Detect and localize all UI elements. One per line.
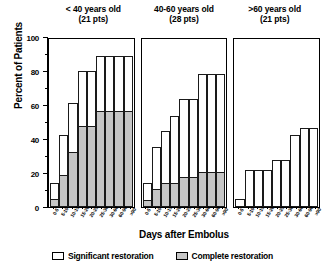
y-axis-tick-label: 100 bbox=[27, 34, 39, 43]
bar-column bbox=[114, 39, 123, 207]
bar-complete-restoration bbox=[96, 111, 105, 207]
bar-column bbox=[68, 39, 77, 207]
plot-panel-40to60 bbox=[141, 38, 228, 208]
panel-title-over60: >60 years old (21 pts) bbox=[229, 4, 320, 30]
x-tick-cell: >90 bbox=[310, 208, 320, 230]
bar-column bbox=[245, 39, 254, 207]
x-tick-group-over60: 0-55-1010-1515-2020-2525-3030-6060-90>90 bbox=[233, 208, 320, 230]
legend-label-complete: Complete restoration bbox=[192, 251, 274, 261]
bar-significant-restoration bbox=[290, 135, 299, 207]
bar-column bbox=[152, 39, 161, 207]
x-tick-cell: 0-5 bbox=[48, 208, 58, 230]
bar-column bbox=[281, 39, 290, 207]
bar-column bbox=[96, 39, 105, 207]
bar-complete-restoration bbox=[216, 172, 225, 207]
bar-column bbox=[300, 39, 309, 207]
bar-column bbox=[170, 39, 179, 207]
bar-column bbox=[198, 39, 207, 207]
bar-significant-restoration bbox=[254, 170, 263, 207]
panel-title-line2: (21 pts) bbox=[48, 14, 139, 24]
panel-title-line1: >60 years old bbox=[248, 4, 301, 14]
bar-column bbox=[207, 39, 216, 207]
panel-titles: < 40 years old (21 pts) 40-60 years old … bbox=[48, 4, 320, 30]
y-axis-tick-label: 20 bbox=[31, 170, 39, 179]
x-tick-cell: 30-60 bbox=[291, 208, 301, 230]
x-tick-cell: 60-90 bbox=[208, 208, 218, 230]
bar-complete-restoration bbox=[152, 189, 161, 207]
x-tick-cell: 15-20 bbox=[262, 208, 272, 230]
bar-column bbox=[59, 39, 68, 207]
bar-significant-restoration bbox=[245, 170, 254, 207]
x-tick-group-under40: 0-55-1010-1515-2020-2525-3030-6060-90>90 bbox=[48, 208, 135, 230]
bar-column bbox=[87, 39, 96, 207]
x-tick-cell: 20-25 bbox=[179, 208, 189, 230]
bar-complete-restoration bbox=[198, 172, 207, 207]
y-axis-tick-label: 60 bbox=[31, 102, 39, 111]
x-tick-cell: 0-5 bbox=[141, 208, 151, 230]
bar-column bbox=[124, 39, 133, 207]
legend-swatch-complete-icon bbox=[176, 252, 188, 260]
bar-column bbox=[254, 39, 263, 207]
x-tick-cell: 5-10 bbox=[58, 208, 68, 230]
x-tick-cell: 30-60 bbox=[106, 208, 116, 230]
bar-complete-restoration bbox=[78, 126, 87, 207]
panel-title-40to60: 40-60 years old (28 pts) bbox=[139, 4, 230, 30]
bar-complete-restoration bbox=[143, 200, 152, 207]
x-tick-cell: 60-90 bbox=[301, 208, 311, 230]
bar-group bbox=[142, 39, 227, 207]
x-axis-tick-label: >90 bbox=[220, 207, 229, 217]
plot-panel-over60 bbox=[233, 38, 320, 208]
x-tick-cell: 10-15 bbox=[253, 208, 263, 230]
bar-significant-restoration bbox=[263, 170, 272, 207]
x-tick-cell: 25-30 bbox=[281, 208, 291, 230]
y-axis: 020406080100 bbox=[40, 38, 48, 208]
x-tick-cell: 25-30 bbox=[96, 208, 106, 230]
bar-complete-restoration bbox=[170, 183, 179, 207]
x-tick-cell: 30-60 bbox=[198, 208, 208, 230]
bar-significant-restoration bbox=[281, 160, 290, 207]
chart-legend: Significant restoration Complete restora… bbox=[0, 246, 325, 266]
legend-swatch-significant-icon bbox=[52, 252, 64, 260]
bar-complete-restoration bbox=[68, 152, 77, 207]
bar-column bbox=[105, 39, 114, 207]
legend-item-significant: Significant restoration bbox=[52, 251, 154, 261]
bar-column bbox=[290, 39, 299, 207]
x-tick-cell: 5-10 bbox=[243, 208, 253, 230]
x-axis-tick-labels: 0-55-1010-1515-2020-2525-3030-6060-90>90… bbox=[48, 208, 320, 230]
bar-complete-restoration bbox=[207, 172, 216, 207]
bar-column bbox=[189, 39, 198, 207]
x-axis-title: Days after Embolus bbox=[48, 229, 320, 240]
x-tick-cell: >90 bbox=[125, 208, 135, 230]
bar-significant-restoration bbox=[300, 128, 309, 207]
y-axis-tick-label: 0 bbox=[35, 204, 39, 213]
bar-column bbox=[216, 39, 225, 207]
x-tick-group-40to60: 0-55-1010-1515-2020-2525-3030-6060-90>90 bbox=[141, 208, 228, 230]
bar-group bbox=[49, 39, 134, 207]
x-tick-cell: 10-15 bbox=[160, 208, 170, 230]
x-tick-cell: 10-15 bbox=[67, 208, 77, 230]
bar-complete-restoration bbox=[59, 175, 68, 207]
legend-label-significant: Significant restoration bbox=[68, 251, 154, 261]
x-tick-cell: 5-10 bbox=[150, 208, 160, 230]
panel-title-line2: (21 pts) bbox=[229, 14, 320, 24]
legend-item-complete: Complete restoration bbox=[176, 251, 274, 261]
bar-significant-restoration bbox=[235, 199, 244, 207]
bar-group bbox=[234, 39, 319, 207]
x-tick-cell: 20-25 bbox=[272, 208, 282, 230]
panel-title-line2: (28 pts) bbox=[139, 14, 230, 24]
x-tick-cell: 15-20 bbox=[77, 208, 87, 230]
bar-column bbox=[263, 39, 272, 207]
chart-figure: < 40 years old (21 pts) 40-60 years old … bbox=[0, 0, 325, 269]
x-tick-cell: 20-25 bbox=[87, 208, 97, 230]
x-tick-cell: 60-90 bbox=[115, 208, 125, 230]
bar-column bbox=[78, 39, 87, 207]
panel-title-under40: < 40 years old (21 pts) bbox=[48, 4, 139, 30]
x-tick-cell: >90 bbox=[218, 208, 228, 230]
bar-column bbox=[309, 39, 318, 207]
y-axis-title: Percent of Patients bbox=[13, 0, 24, 146]
panel-title-line1: < 40 years old bbox=[66, 4, 121, 14]
bar-significant-restoration bbox=[309, 128, 318, 207]
bar-complete-restoration bbox=[161, 183, 170, 207]
y-axis-tick-label: 40 bbox=[31, 136, 39, 145]
x-tick-cell: 15-20 bbox=[170, 208, 180, 230]
